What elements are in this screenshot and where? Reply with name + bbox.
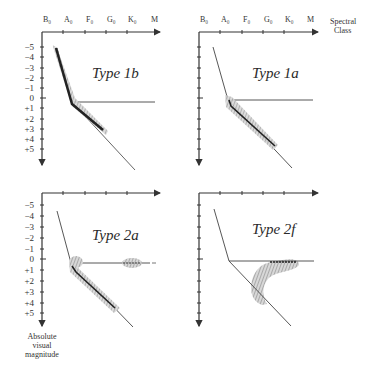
x-tick-A0: A₀ bbox=[64, 15, 73, 24]
x-tick-labels: B₀ A₀ F₀ G₀ K₀ M bbox=[200, 15, 314, 24]
y-axis-label-visual: visual bbox=[32, 341, 52, 350]
y-tick-p2: +2 bbox=[24, 276, 34, 286]
x-tick-A0: A₀ bbox=[221, 15, 230, 24]
panel-type-2f: Type 2f bbox=[197, 191, 318, 326]
y-tick-m2: −2 bbox=[24, 233, 34, 243]
y-tick-p4: +4 bbox=[24, 298, 34, 308]
x-tick-G0: G₀ bbox=[264, 15, 273, 24]
x-tick-labels: B₀ A₀ F₀ G₀ K₀ M bbox=[43, 15, 158, 24]
y-tick-0: 0 bbox=[30, 93, 35, 103]
y-tick-p5: +5 bbox=[24, 144, 34, 154]
y-tick-p4: +4 bbox=[24, 134, 34, 144]
y-tick-0: 0 bbox=[30, 254, 35, 264]
y-tick-p5: +5 bbox=[24, 308, 34, 318]
giant-branch-crescent bbox=[251, 259, 299, 305]
y-axis-label-magnitude: magnitude bbox=[25, 350, 59, 359]
y-tick-m2: −2 bbox=[24, 73, 34, 83]
y-tick-p1: +1 bbox=[24, 103, 34, 113]
y-tick-labels: −5 −4 −3 −2 −1 0 +1 +2 +3 +4 +5 bbox=[24, 200, 34, 318]
x-axis-label-spectral: Spectral bbox=[330, 17, 357, 26]
x-tick-M: M bbox=[307, 15, 314, 24]
y-tick-p1: +1 bbox=[24, 265, 34, 275]
x-tick-B0: B₀ bbox=[200, 15, 208, 24]
y-tick-m3: −3 bbox=[24, 222, 34, 232]
x-tick-K0: K₀ bbox=[285, 15, 294, 24]
x-tick-F0: F₀ bbox=[243, 15, 250, 24]
y-axis-label: Absolute visual magnitude bbox=[25, 332, 59, 359]
y-tick-m1: −1 bbox=[24, 83, 34, 93]
panel-type-1a: B₀ A₀ F₀ G₀ K₀ M Spectral Class Type 1a bbox=[197, 15, 357, 168]
panel-title: Type 1a bbox=[252, 65, 299, 81]
cluster-hr-diagram-types: B₀ A₀ F₀ G₀ K₀ M −5 −4 −3 −2 −1 0 bbox=[0, 0, 370, 372]
y-tick-m4: −4 bbox=[24, 211, 34, 221]
x-tick-B0: B₀ bbox=[43, 15, 51, 24]
y-tick-p3: +3 bbox=[24, 287, 34, 297]
y-tick-m1: −1 bbox=[24, 244, 34, 254]
panel-title: Type 2a bbox=[92, 227, 139, 243]
star-band bbox=[53, 45, 108, 135]
x-tick-F0: F₀ bbox=[86, 15, 93, 24]
panel-type-1b: B₀ A₀ F₀ G₀ K₀ M −5 −4 −3 −2 −1 0 bbox=[24, 15, 160, 170]
y-tick-m3: −3 bbox=[24, 63, 34, 73]
panel-title: Type 1b bbox=[92, 65, 139, 81]
y-axis-label-absolute: Absolute bbox=[28, 332, 57, 341]
panel-title: Type 2f bbox=[252, 221, 297, 237]
x-tick-G0: G₀ bbox=[107, 15, 116, 24]
y-tick-m5: −5 bbox=[24, 42, 34, 52]
y-tick-p3: +3 bbox=[24, 124, 34, 134]
y-tick-labels: −5 −4 −3 −2 −1 0 +1 +2 +3 +4 +5 bbox=[24, 42, 34, 154]
y-tick-m4: −4 bbox=[24, 52, 34, 62]
y-tick-p2: +2 bbox=[24, 114, 34, 124]
observed-sequence bbox=[56, 48, 103, 130]
x-tick-M: M bbox=[151, 15, 158, 24]
y-tick-m5: −5 bbox=[24, 200, 34, 210]
x-axis-label-class: Class bbox=[334, 26, 351, 35]
x-tick-K0: K₀ bbox=[128, 15, 137, 24]
panel-type-2a: −5 −4 −3 −2 −1 0 +1 +2 +3 +4 +5 Type 2a … bbox=[24, 191, 160, 359]
